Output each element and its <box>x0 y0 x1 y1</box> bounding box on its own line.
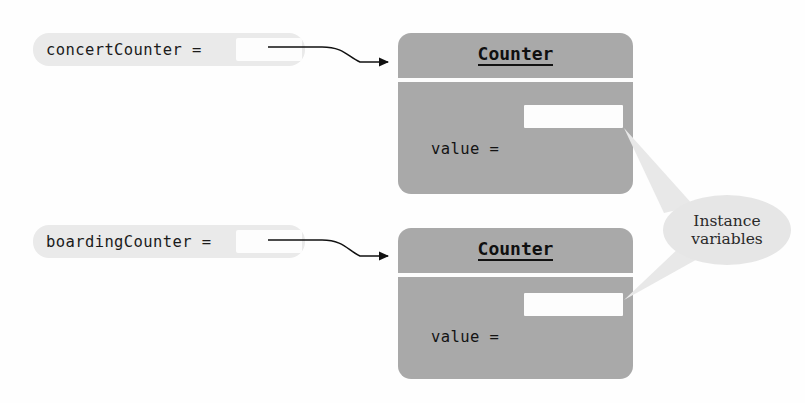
field-name-label: value = <box>431 328 499 346</box>
object-class-name: Counter <box>478 240 554 262</box>
reference-value-slot[interactable] <box>236 38 302 61</box>
callout-tail-upper <box>624 128 694 213</box>
variable-label-concert-counter[interactable]: concertCounter = <box>33 33 305 66</box>
field-value-slot[interactable] <box>524 105 623 128</box>
variable-name-label: concertCounter = <box>33 41 202 59</box>
variable-name-label: boardingCounter = <box>33 233 211 251</box>
object-box-counter-1[interactable]: Counter value = <box>398 33 633 194</box>
object-class-name: Counter <box>478 45 554 67</box>
reference-value-slot[interactable] <box>236 230 302 253</box>
field-row-value: value = <box>431 140 499 158</box>
diagram-canvas: concertCounter = Counter value = boardin… <box>0 0 805 403</box>
object-title-bar: Counter <box>398 228 633 273</box>
object-divider <box>398 273 633 277</box>
callout-line-1: Instance <box>693 212 760 230</box>
callout-line-2: variables <box>691 230 763 248</box>
object-title-bar: Counter <box>398 33 633 78</box>
object-box-counter-2[interactable]: Counter value = <box>398 228 633 379</box>
field-value-slot[interactable] <box>524 293 623 316</box>
callout-instance-variables: Instance variables <box>663 195 791 265</box>
object-divider <box>398 78 633 82</box>
variable-label-boarding-counter[interactable]: boardingCounter = <box>33 225 305 258</box>
field-row-value: value = <box>431 328 499 346</box>
field-name-label: value = <box>431 140 499 158</box>
